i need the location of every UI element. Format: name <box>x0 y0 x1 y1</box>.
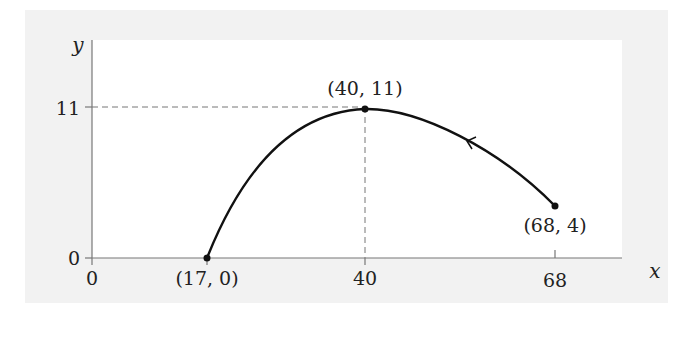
x-tick-label-0: 0 <box>86 267 98 289</box>
point-label-68-4: (68, 4) <box>523 214 586 236</box>
point-40-11 <box>362 106 369 113</box>
point-17-0 <box>204 255 211 262</box>
x-tick-label-40: 40 <box>353 267 377 289</box>
y-axis-label: y <box>71 33 84 57</box>
point-label-17-0: (17, 0) <box>175 267 238 289</box>
y-tick-label-0: 0 <box>68 247 80 269</box>
x-axis-label: x <box>649 259 660 283</box>
x-tick-label-68: 68 <box>543 269 567 291</box>
y-tick-label-11: 11 <box>56 97 80 119</box>
point-68-4 <box>552 203 559 210</box>
graph-figure: y x 11 0 0 40 68 (17, 0) (40, 11) (68, 4… <box>0 0 684 343</box>
point-label-40-11: (40, 11) <box>327 77 402 99</box>
